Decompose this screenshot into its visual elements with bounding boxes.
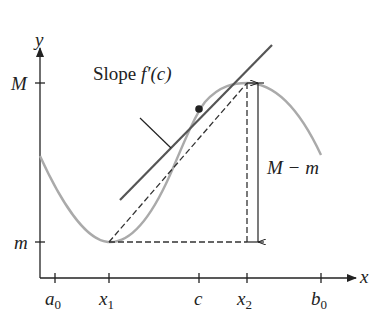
x2-sub: 2: [245, 297, 252, 312]
slope-leader: [140, 118, 171, 148]
tick-label-a0: a0: [45, 289, 61, 311]
c-base: c: [194, 288, 202, 309]
x-axis-label: x: [360, 267, 368, 286]
slope-label: Slope f′(c): [93, 64, 172, 83]
slope-text: Slope: [93, 63, 141, 84]
y-axis-label: y: [35, 30, 43, 49]
b0-base: b: [311, 288, 321, 309]
m-label: m: [14, 233, 28, 252]
a0-base: a: [45, 288, 55, 309]
slope-expr: f′(c): [141, 63, 172, 84]
tick-label-x2: x2: [237, 289, 252, 311]
range-label: M − m: [267, 158, 319, 177]
x1-sub: 1: [107, 297, 114, 312]
tick-label-x1: x1: [99, 289, 114, 311]
M-label: M: [11, 74, 27, 93]
tick-label-b0: b0: [311, 289, 327, 311]
tick-label-c: c: [194, 289, 202, 308]
a0-sub: 0: [55, 297, 62, 312]
secant-line: [109, 83, 247, 242]
mean-value-diagram: [0, 0, 381, 321]
tangency-point: [195, 105, 203, 113]
b0-sub: 0: [321, 297, 328, 312]
